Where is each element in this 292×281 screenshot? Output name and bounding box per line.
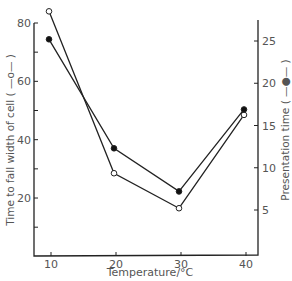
series-line	[49, 39, 244, 191]
right-tick-label: 15	[262, 120, 276, 133]
right-tick-label: 5	[262, 204, 269, 217]
left-tick-label: 60	[17, 75, 31, 88]
series-group	[46, 9, 247, 211]
right-tick-label: 25	[262, 35, 276, 48]
filled-circle-marker	[241, 107, 247, 113]
open-circle-marker	[111, 170, 117, 176]
right-tick-label: 20	[262, 77, 276, 90]
left-axis-ticks: 20406080	[17, 17, 38, 227]
chart: 20406080 510152025 10203040 Temperature/…	[0, 0, 292, 281]
right-tick-label: 10	[262, 162, 276, 175]
x-tick-label: 40	[239, 258, 253, 271]
left-axis-label: Time to fall width of cell ( —o— )	[4, 54, 16, 227]
series-line	[49, 11, 244, 208]
open-circle-marker	[176, 205, 182, 211]
x-tick-label: 10	[44, 258, 58, 271]
right-axis-ticks: 510152025	[254, 35, 276, 217]
axes	[34, 20, 258, 256]
filled-circle-marker	[176, 189, 182, 195]
left-tick-label: 40	[17, 134, 31, 147]
filled-circle-marker	[46, 37, 52, 43]
right-axis-label: Presentation time ( —●— )	[279, 59, 291, 200]
left-axis	[34, 20, 258, 256]
open-circle-marker	[46, 9, 52, 15]
left-tick-label: 20	[17, 192, 31, 205]
x-axis-label: Temperature/°C	[106, 266, 194, 279]
filled-circle-marker	[111, 146, 117, 152]
left-tick-label: 80	[17, 17, 31, 30]
